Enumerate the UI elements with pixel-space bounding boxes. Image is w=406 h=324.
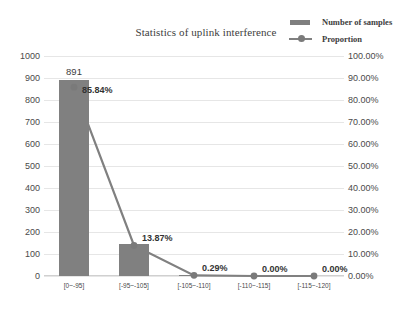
point-value-label: 85.84% [82, 85, 113, 95]
y-axis-left-tick: 700 [25, 117, 40, 127]
y-axis-right-tick: 30.00% [348, 205, 379, 215]
line-marker-swatch-icon [288, 33, 314, 45]
x-axis-tick-label: [-95~-105] [104, 282, 164, 289]
y-axis-right-tick: 10.00% [348, 249, 379, 259]
legend-item-number-of-samples[interactable]: Number of samples [288, 14, 406, 29]
y-axis-right: 100.00%90.00%80.00%70.00%60.00%50.00%40.… [348, 56, 406, 276]
line-marker[interactable] [191, 272, 198, 279]
y-axis-right-tick: 70.00% [348, 117, 379, 127]
line-marker[interactable] [311, 273, 318, 280]
y-axis-right-tick: 50.00% [348, 161, 379, 171]
y-axis-right-tick: 60.00% [348, 139, 379, 149]
chart-legend: Number of samples Proportion [288, 14, 406, 48]
y-axis-left-tick: 1000 [20, 51, 40, 61]
y-axis-left-tick: 300 [25, 205, 40, 215]
line-marker[interactable] [251, 273, 258, 280]
x-axis-tick-label: [0~-95] [44, 282, 104, 289]
y-axis-left-tick: 500 [25, 161, 40, 171]
point-value-label: 0.00% [262, 264, 288, 274]
y-axis-left-tick: 0 [35, 271, 40, 281]
plot-area: 89185.84%13.87%0.29%0.00%0.00% [44, 56, 344, 276]
y-axis-left-tick: 100 [25, 249, 40, 259]
y-axis-right-tick: 80.00% [348, 95, 379, 105]
y-axis-left-tick: 900 [25, 73, 40, 83]
legend-label-number-of-samples: Number of samples [314, 17, 392, 27]
point-value-label: 13.87% [142, 233, 173, 243]
x-axis-tick-label: [-110~-115] [224, 282, 284, 289]
y-axis-left-tick: 600 [25, 139, 40, 149]
x-axis-tick-label: [-115~-120] [284, 282, 344, 289]
x-axis-tick-label: [-105~-110] [164, 282, 224, 289]
chart-title: Statistics of uplink interference [132, 26, 280, 38]
y-axis-left-tick: 400 [25, 183, 40, 193]
legend-item-proportion[interactable]: Proportion [288, 31, 406, 46]
x-axis: [0~-95][-95~-105][-105~-110][-110~-115][… [44, 282, 344, 298]
point-value-label: 0.00% [322, 264, 348, 274]
point-value-label: 0.29% [202, 263, 228, 273]
line-path [74, 87, 314, 276]
y-axis-right-tick: 0.00% [348, 271, 374, 281]
y-axis-left-tick: 800 [25, 95, 40, 105]
chart-container: Statistics of uplink interference Number… [0, 0, 406, 324]
y-axis-right-tick: 100.00% [348, 51, 384, 61]
y-axis-right-tick: 20.00% [348, 227, 379, 237]
line-marker[interactable] [71, 84, 78, 91]
legend-label-proportion: Proportion [314, 34, 362, 44]
y-axis-right-tick: 40.00% [348, 183, 379, 193]
bar-swatch-icon [288, 16, 314, 28]
line-marker[interactable] [131, 242, 138, 249]
y-axis-right-tick: 90.00% [348, 73, 379, 83]
y-axis-left: 10009008007006005004003002001000 [0, 56, 40, 276]
y-axis-left-tick: 200 [25, 227, 40, 237]
